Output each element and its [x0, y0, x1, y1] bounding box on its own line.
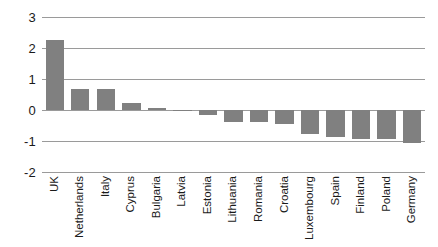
- y-axis-tick-labels: 3210-1-2: [0, 17, 36, 172]
- bar[interactable]: [97, 89, 115, 110]
- bar-slot: [272, 17, 298, 172]
- bar-slot: [221, 17, 247, 172]
- x-tick-label: Poland: [381, 176, 393, 212]
- x-tick-label: Latvia: [177, 176, 189, 207]
- bar[interactable]: [122, 103, 140, 110]
- x-tick-label: Netherlands: [75, 176, 87, 238]
- x-tick-label-slot: Luxembourg: [297, 174, 323, 246]
- y-tick-label: 0: [8, 104, 36, 117]
- x-tick-label: Italy: [100, 176, 112, 197]
- x-tick-label: Germany: [406, 176, 418, 223]
- x-tick-label-slot: Croatia: [272, 174, 298, 246]
- bar-slot: [297, 17, 323, 172]
- x-tick-label: Luxembourg: [304, 176, 316, 240]
- y-tick-label: -2: [8, 166, 36, 179]
- bar-chart: 3210-1-2 UKNetherlandsItalyCyprusBulgari…: [0, 0, 438, 247]
- bar-slot: [93, 17, 119, 172]
- bar-slot: [144, 17, 170, 172]
- x-tick-label-slot: Poland: [374, 174, 400, 246]
- x-tick-label: Finland: [355, 176, 367, 214]
- plot-area: [42, 17, 425, 172]
- x-tick-label-slot: Lithuania: [221, 174, 247, 246]
- x-tick-label: Croatia: [279, 176, 291, 213]
- bar[interactable]: [377, 110, 395, 139]
- x-tick-label-slot: Netherlands: [68, 174, 94, 246]
- x-tick-label-slot: Romania: [246, 174, 272, 246]
- x-tick-label-slot: Finland: [348, 174, 374, 246]
- x-tick-label-slot: Germany: [399, 174, 425, 246]
- bar[interactable]: [352, 110, 370, 139]
- x-tick-label: Bulgaria: [151, 176, 163, 218]
- x-tick-label: Lithuania: [228, 176, 240, 223]
- x-tick-label-slot: Italy: [93, 174, 119, 246]
- x-tick-label: Spain: [330, 176, 342, 205]
- y-tick-label: 2: [8, 42, 36, 55]
- bar[interactable]: [326, 110, 344, 137]
- bar[interactable]: [71, 89, 89, 110]
- bars-series: [42, 17, 425, 172]
- bar[interactable]: [250, 110, 268, 122]
- x-tick-label: Romania: [253, 176, 265, 222]
- bar-slot: [323, 17, 349, 172]
- x-axis-tick-labels: UKNetherlandsItalyCyprusBulgariaLatviaEs…: [42, 174, 425, 246]
- bar[interactable]: [403, 110, 421, 143]
- bar[interactable]: [224, 110, 242, 122]
- bar-slot: [170, 17, 196, 172]
- bar-slot: [68, 17, 94, 172]
- x-tick-label-slot: Estonia: [195, 174, 221, 246]
- x-tick-label-slot: Spain: [323, 174, 349, 246]
- y-tick-label: 1: [8, 73, 36, 86]
- bar-slot: [42, 17, 68, 172]
- bar-slot: [399, 17, 425, 172]
- bar-slot: [374, 17, 400, 172]
- bar-slot: [195, 17, 221, 172]
- x-tick-label-slot: Bulgaria: [144, 174, 170, 246]
- bar[interactable]: [46, 40, 64, 110]
- bar[interactable]: [173, 110, 191, 111]
- x-tick-label: Estonia: [202, 176, 214, 214]
- bar[interactable]: [199, 110, 217, 115]
- bar[interactable]: [301, 110, 319, 134]
- gridline-neg2: [42, 172, 425, 173]
- x-tick-label: UK: [49, 176, 61, 192]
- bar[interactable]: [148, 108, 166, 110]
- x-tick-label-slot: UK: [42, 174, 68, 246]
- bar[interactable]: [275, 110, 293, 124]
- x-tick-label-slot: Cyprus: [119, 174, 145, 246]
- x-tick-label: Cyprus: [126, 176, 138, 212]
- bar-slot: [246, 17, 272, 172]
- y-tick-label: -1: [8, 135, 36, 148]
- y-tick-label: 3: [8, 11, 36, 24]
- bar-slot: [119, 17, 145, 172]
- bar-slot: [348, 17, 374, 172]
- x-tick-label-slot: Latvia: [170, 174, 196, 246]
